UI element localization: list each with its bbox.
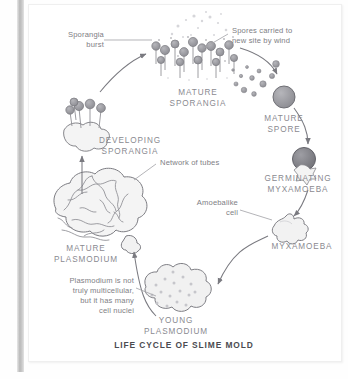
- mature-plasmodium-art: [54, 168, 147, 253]
- stage-label-mature-sporangia: MATURE SPORANGIA: [156, 88, 240, 109]
- arrow-developing-to-mature-sporangia: [100, 54, 146, 92]
- myxamoeba-art: [272, 214, 308, 244]
- stage-label-developing-sporangia: DEVELOPING SPORANGIA: [86, 136, 174, 157]
- diagram-stage: Sporangia burst Spores carried to new si…: [28, 4, 340, 360]
- figure-page: Sporangia burst Spores carried to new si…: [0, 0, 348, 379]
- figure-title: LIFE CYCLE OF SLIME MOLD: [28, 340, 340, 350]
- stage-label-mature-plasmodium: MATURE PLASMODIUM: [42, 244, 130, 265]
- annotation-sporangia-burst: Sporangia burst: [44, 30, 104, 50]
- arrow-myxamoeba-to-young-plasmodium: [218, 236, 268, 284]
- stage-label-young-plasmodium: YOUNG PLASMODIUM: [132, 316, 220, 337]
- leader-amoebalike-cell: [240, 210, 272, 220]
- annotation-amoebalike-cell: Amoebalike cell: [174, 198, 238, 218]
- annotation-spores-wind: Spores carried to new site by wind: [232, 26, 324, 46]
- stage-label-myxamoeba: MYXAMOEBA: [264, 242, 340, 253]
- annotation-network-tubes: Network of tubes: [160, 158, 252, 168]
- annotation-plasmodium-note: Plasmodium is not truly multicellular, b…: [34, 276, 134, 316]
- leader-network-tubes: [134, 164, 156, 180]
- book-gutter-bar: [17, 0, 24, 372]
- mature-spore-art: [273, 86, 295, 108]
- stage-label-germinating-myxamoeba: GERMINATING MYXAMOEBA: [256, 174, 340, 195]
- stage-label-mature-spore: MATURE SPORE: [250, 114, 318, 135]
- young-plasmodium-art: [145, 263, 211, 311]
- mature-sporangia-art: [152, 11, 238, 81]
- leader-spores-wind: [204, 34, 228, 48]
